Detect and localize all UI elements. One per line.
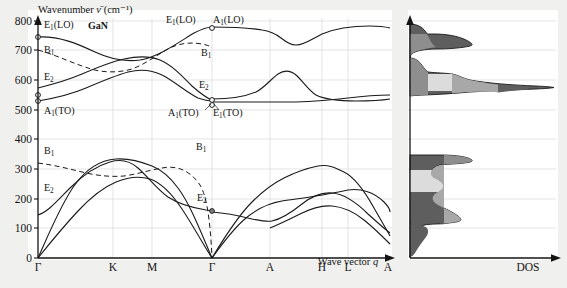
x-axis-symbol: q <box>373 256 378 267</box>
branch-e2-high <box>38 57 212 100</box>
branch-right-upper <box>212 165 390 258</box>
label-a1to-gamma1: A1(TO) <box>44 105 75 118</box>
y-tick-200: 200 <box>15 193 33 205</box>
branch-acoustic-2 <box>38 177 212 258</box>
x-tick-m: M <box>147 261 157 273</box>
y-tick-labels: 0 100 200 300 400 500 600 700 800 <box>15 15 33 264</box>
label-e2-lower-gamma2: E2 <box>197 192 207 205</box>
branch-a1to <box>38 70 212 101</box>
marker-e2-low <box>210 209 215 214</box>
label-e2-gamma2: E2 <box>199 79 209 92</box>
label-e2-lower-gamma1: E2 <box>44 182 54 195</box>
x-tick-a-2: A <box>384 261 393 273</box>
x-tick-a-1: A <box>266 261 275 273</box>
phonon-dispersion-chart: 0 100 200 300 400 500 600 700 800 Wavenu… <box>0 0 567 288</box>
label-a1lo-gamma2: A1(LO) <box>213 14 244 27</box>
y-tick-100: 100 <box>15 222 33 234</box>
label-b1-gamma2: B1 <box>201 47 212 60</box>
y-tick-600: 600 <box>15 74 33 86</box>
y-tick-400: 400 <box>15 133 33 145</box>
label-b1-lower-gamma2: B1 <box>196 141 207 154</box>
branch-b1-lower <box>38 163 212 258</box>
figure-panel: 0 100 200 300 400 500 600 700 800 Wavenu… <box>0 0 567 288</box>
label-material: GaN <box>88 20 109 31</box>
degeneracy-markers <box>36 26 215 108</box>
x-tick-k: K <box>109 261 118 273</box>
dos-axis-label: DOS <box>516 261 539 273</box>
branch-right-mid <box>212 190 390 259</box>
y-tick-800: 800 <box>15 15 33 27</box>
label-b1-gamma1: B1 <box>44 44 55 57</box>
y-tick-300: 300 <box>15 163 33 175</box>
label-b1-lower-gamma1: B1 <box>44 145 55 158</box>
branch-acoustic-1 <box>38 159 212 258</box>
y-tick-500: 500 <box>15 104 33 116</box>
x-axis-title: Wave vector q <box>318 256 378 267</box>
label-a1to-gamma2: A1(TO) <box>168 107 199 120</box>
y-axis-title: Wavenumber ν̄ (cm⁻¹) <box>38 4 133 16</box>
x-tick-gamma-2: Γ <box>209 261 216 273</box>
y-tick-0: 0 <box>26 252 32 264</box>
branch-b1-upper <box>38 43 212 72</box>
x-tick-gamma-1: Γ <box>35 261 42 273</box>
svg-text:Wavenumber ν̄ (cm⁻¹): Wavenumber ν̄ (cm⁻¹) <box>38 4 133 16</box>
label-e1lo-gamma1: E1(LO) <box>44 19 74 32</box>
label-e2-gamma1: E2 <box>44 71 54 84</box>
panel-gutter <box>392 8 408 260</box>
x-axis-title-text: Wave vector <box>318 256 371 267</box>
label-e1lo-gamma2: E1(LO) <box>166 14 196 27</box>
branch-e1lo <box>38 26 390 61</box>
y-axis-unit: (cm⁻¹) <box>104 4 133 16</box>
y-tick-700: 700 <box>15 44 33 56</box>
y-axis-title-text: Wavenumber <box>38 4 94 15</box>
gridlines-vertical <box>113 18 348 258</box>
branch-right-lower <box>270 206 390 244</box>
label-e1to-gamma2: E1(TO) <box>213 107 243 120</box>
